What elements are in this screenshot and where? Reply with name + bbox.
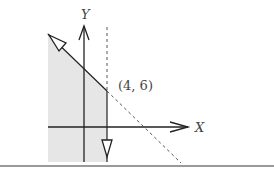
y-axis-label: Y	[81, 7, 91, 22]
x-axis-label: X	[194, 120, 205, 135]
point-label: (4, 6)	[118, 78, 153, 93]
shaded-feasible-region	[48, 34, 107, 162]
bottom-divider	[0, 165, 274, 167]
inequality-diagram: Y X (4, 6)	[0, 0, 274, 171]
